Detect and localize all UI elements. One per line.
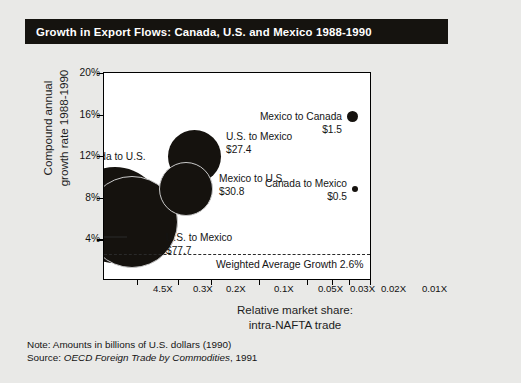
y-tick-label-20: 20% [70,67,100,78]
chart-title-bar: Growth in Export Flows: Canada, U.S. and… [25,19,448,44]
y-tick-mark-20 [97,73,104,74]
callout-mexico-to-canada-label: Mexico to Canada [260,111,342,122]
x-tick-mark-0_05X [307,279,308,285]
weighted-average-label: Weighted Average Growth 2.6% [216,259,363,270]
weighted-average-line [104,254,370,255]
callout-canada-to-mexico-value: $0.5 [244,190,347,203]
callout-mexico-to-canada-value: $1.5 [244,123,342,136]
callout-canada-to-mexico-label: Canada to Mexico [265,178,347,189]
y-tick-mark-8 [97,198,104,199]
bubble-canada-to-mexico-0-5[interactable] [352,186,358,192]
note-line: Note: Amounts in billions of U.S. dollar… [27,338,257,351]
x-tick-mark-4_5X [137,279,138,285]
page-title: Growth in Export Flows: Canada, U.S. and… [25,26,372,38]
callout-us-to-mexico-77-7-value: $77.7 [166,244,232,257]
callout-canada-to-us: Canada to U.S. $89.8 [104,150,146,176]
callout-canada-to-us-value: $89.8 [104,163,146,176]
x-tick-label-4_5X: 4.5X [153,283,173,294]
bubble-mexico-to-us-30-8[interactable] [159,162,213,216]
y-tick-mark-16 [97,115,104,116]
callout-us-to-mexico-77-7-label: U.S. to Mexico [166,232,232,243]
y-tick-label-8: 8% [70,192,100,203]
callout-canada-to-mexico: Canada to Mexico $0.5 [244,177,347,203]
y-tick-label-4: 4% [70,233,100,244]
plot-area: 20% 16% 12% 8% 4% [103,72,371,280]
callout-us-to-mexico-27-4-value: $27.4 [226,143,292,156]
callout-mexico-to-canada: Mexico to Canada $1.5 [244,110,342,136]
source-title: OECD Foreign Trade by Commodities [64,352,230,363]
x-axis-title: Relative market share: intra-NAFTA trade [170,303,420,332]
y-axis-title: Compound annual growth rate 1988-1990 [40,28,72,228]
y-tick-mark-12 [97,156,104,157]
x-axis-title-line1: Relative market share: [170,303,420,318]
x-tick-label-0_01X: 0.01X [422,283,447,294]
x-axis-title-line2: intra-NAFTA trade [170,318,420,333]
footnotes: Note: Amounts in billions of U.S. dollar… [27,338,257,365]
x-tick-label-0_1X: 0.1X [274,283,294,294]
source-prefix: Source: [27,352,61,363]
bubble-mexico-to-canada-1-5[interactable] [347,111,358,122]
chart-figure: Growth in Export Flows: Canada, U.S. and… [0,0,521,383]
plot-clip-region: Canada to U.S. $89.8 U.S. to Mexico $77.… [104,73,370,279]
callout-canada-to-us-label: Canada to U.S. [104,151,146,162]
x-tick-label-0_02X: 0.02X [381,283,406,294]
y-tick-label-16: 16% [70,109,100,120]
x-tick-label-0_2X: 0.2X [226,283,246,294]
source-line: Source: OECD Foreign Trade by Commoditie… [27,351,257,364]
y-tick-label-12: 12% [70,150,100,161]
source-suffix: , 1991 [230,352,257,363]
x-tick-label-0_3X: 0.3X [193,283,213,294]
y-axis-title-line1: Compound annual [40,28,56,228]
x-tick-mark-0_3X [178,279,179,285]
y-tick-mark-4 [97,239,104,240]
x-tick-label-0_05X: 0.05X [318,283,343,294]
x-tick-mark-0_1X [259,279,260,285]
x-tick-label-0_03X: 0.03X [350,283,375,294]
